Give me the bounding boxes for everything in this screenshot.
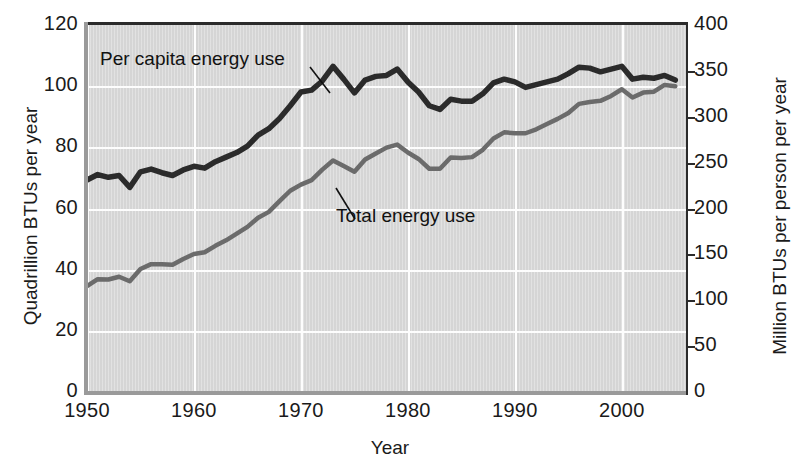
series-label-per-capita: Per capita energy use xyxy=(100,48,285,70)
y-right-tick-150: 150 xyxy=(694,241,728,264)
y-right-tickmark-350 xyxy=(686,71,695,73)
x-tick-2000: 2000 xyxy=(599,399,645,422)
leader-line-per-capita xyxy=(310,67,330,93)
x-tick-1980: 1980 xyxy=(385,399,431,422)
y-right-tick-0: 0 xyxy=(694,379,705,402)
x-tick-1950: 1950 xyxy=(64,399,110,422)
y-right-tick-350: 350 xyxy=(694,58,728,81)
y-right-tick-100: 100 xyxy=(694,287,728,310)
y-right-tick-200: 200 xyxy=(694,196,728,219)
y-right-tick-250: 250 xyxy=(694,150,728,173)
y-right-tickmark-150 xyxy=(686,254,695,256)
y-axis-right-title: Million BTUs per person per year xyxy=(769,36,791,396)
axis-bottom-rule xyxy=(84,391,686,395)
series-label-total: Total energy use xyxy=(336,205,475,227)
axis-top-rule xyxy=(87,22,686,25)
y-axis-left-title: Quadrillion BTUs per year xyxy=(20,36,42,396)
y-right-tick-400: 400 xyxy=(694,12,728,35)
y-left-tick-120: 120 xyxy=(2,12,78,35)
x-tick-1990: 1990 xyxy=(492,399,538,422)
y-axis-right-ticklabels: 400350300250200150100500 xyxy=(694,0,754,471)
y-right-tick-300: 300 xyxy=(694,104,728,127)
y-right-tickmark-100 xyxy=(686,300,695,302)
axis-left-rule xyxy=(84,22,88,395)
x-tick-1970: 1970 xyxy=(278,399,324,422)
y-right-tickmark-250 xyxy=(686,163,695,165)
y-right-tick-50: 50 xyxy=(694,333,717,356)
y-right-tickmark-300 xyxy=(686,117,695,119)
y-right-tickmark-50 xyxy=(686,346,695,348)
x-tick-1960: 1960 xyxy=(171,399,217,422)
x-axis-title: Year xyxy=(0,437,780,459)
y-right-tickmark-200 xyxy=(686,209,695,211)
